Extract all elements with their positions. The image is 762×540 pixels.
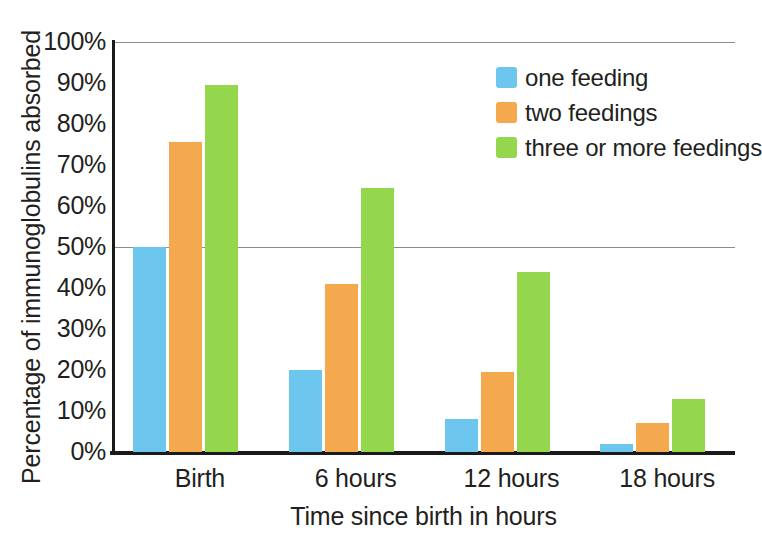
legend-swatch-icon <box>496 102 517 123</box>
bar-group <box>268 42 424 452</box>
bar <box>600 444 633 452</box>
bar <box>361 188 394 452</box>
x-axis-title: Time since birth in hours <box>112 500 735 532</box>
y-axis-tick-labels: 100%90%80%70%60%50%40%30%20%10%0% <box>0 0 106 540</box>
y-axis-tick-label: 80% <box>2 111 106 136</box>
legend-item: three or more feedings <box>496 132 741 167</box>
y-axis-tick-label: 50% <box>2 234 106 259</box>
legend-label: one feeding <box>525 62 648 93</box>
x-axis-tick-label: 6 hours <box>276 462 436 494</box>
bar <box>445 419 478 452</box>
bar <box>481 372 514 452</box>
legend-swatch-icon <box>496 137 517 158</box>
x-axis-tick-label: 12 hours <box>431 462 591 494</box>
y-axis-tick-label: 70% <box>2 152 106 177</box>
legend-label: two feedings <box>525 97 657 128</box>
bar <box>289 370 322 452</box>
chart-legend: one feedingtwo feedingsthree or more fee… <box>496 62 741 167</box>
y-axis-tick-label: 0% <box>2 439 106 464</box>
y-axis-tick-label: 60% <box>2 193 106 218</box>
y-axis-tick-label: 100% <box>2 29 106 54</box>
x-axis-tick-labels: Birth6 hours12 hours18 hours <box>112 462 735 498</box>
x-axis-tick-label: Birth <box>120 462 280 494</box>
legend-item: two feedings <box>496 97 741 132</box>
legend-swatch-icon <box>496 67 517 88</box>
bar <box>133 247 166 452</box>
x-axis-tick-label: 18 hours <box>587 462 747 494</box>
bar-group <box>112 42 268 452</box>
bar <box>169 142 202 452</box>
y-axis-tick-label: 40% <box>2 275 106 300</box>
bar <box>325 284 358 452</box>
bar <box>672 399 705 452</box>
y-axis-tick-label: 90% <box>2 70 106 95</box>
y-axis-tick-label: 20% <box>2 357 106 382</box>
y-axis-tick-label: 30% <box>2 316 106 341</box>
bar <box>636 423 669 452</box>
bar <box>517 272 550 452</box>
legend-label: three or more feedings <box>525 132 762 163</box>
y-axis-tick-label: 10% <box>2 398 106 423</box>
bar <box>205 85 238 452</box>
legend-item: one feeding <box>496 62 741 97</box>
